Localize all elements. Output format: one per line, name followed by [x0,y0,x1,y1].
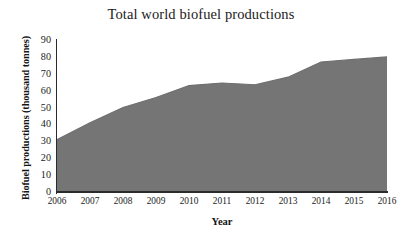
x-tick-label: 2012 [238,196,272,206]
y-tick-label: 90 [25,35,51,45]
x-tick-label: 2010 [172,196,206,206]
x-tick-label: 2008 [106,196,140,206]
y-axis-line [56,39,57,194]
y-tick-label: 60 [25,86,51,96]
x-tick-label: 2016 [370,196,402,206]
x-tick-label: 2007 [73,196,107,206]
area-series-svg [57,40,387,192]
y-tick-label: 70 [25,69,51,79]
biofuel-area-chart: Total world biofuel productions Biofuel … [0,0,402,240]
x-axis-title: Year [57,216,387,227]
y-tick-label: 80 [25,52,51,62]
y-tick-label: 20 [25,153,51,163]
chart-title: Total world biofuel productions [0,6,402,23]
x-tick-label: 2009 [139,196,173,206]
x-tick-label: 2013 [271,196,305,206]
x-tick-label: 2015 [337,196,371,206]
y-tick-label: 40 [25,119,51,129]
y-tick-label: 50 [25,103,51,113]
area-fill [57,57,387,192]
y-tick-label: 30 [25,136,51,146]
x-tick-label: 2011 [205,196,239,206]
x-tick-label: 2014 [304,196,338,206]
y-tick-label: 10 [25,170,51,180]
x-tick-label: 2006 [40,196,74,206]
plot-area [57,40,387,192]
x-axis-line [56,191,388,193]
